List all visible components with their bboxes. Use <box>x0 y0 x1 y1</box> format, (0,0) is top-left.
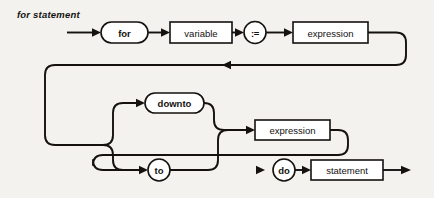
return-arrow-icon <box>222 61 231 70</box>
arrow-to-to-icon <box>139 166 148 175</box>
arrow-to-expression-icon <box>284 28 293 37</box>
node-downto-label: downto <box>158 98 192 109</box>
node-to-label: to <box>155 165 164 176</box>
node-assign-operator-label: := <box>251 28 260 39</box>
node-do-label: do <box>278 165 290 176</box>
rail-fork-to-downto <box>103 103 137 145</box>
exit-arrow-icon <box>401 166 411 175</box>
arrow-to-variable-icon <box>161 28 170 37</box>
arrow-to-assign-icon <box>235 28 244 37</box>
rail-to-merge <box>170 130 247 170</box>
node-for-label: for <box>118 28 131 39</box>
arrow-to-expression-final-icon <box>246 126 255 135</box>
rail-downto-merge <box>204 103 247 130</box>
node-expression-final-label: expression <box>270 125 316 136</box>
node-statement-label: statement <box>326 165 368 176</box>
railroad-diagram: for variable := expression downto <box>0 0 434 198</box>
entry-arrow-icon <box>92 28 101 37</box>
arrow-to-statement-icon <box>302 166 311 175</box>
node-expression-initial-label: expression <box>308 28 354 39</box>
arrow-to-do-icon <box>256 166 265 175</box>
node-variable-label: variable <box>184 28 217 39</box>
arrow-to-downto-icon <box>136 99 145 108</box>
rail-fork-to-to <box>103 145 140 170</box>
syntax-diagram-page: for statement for variable := expression <box>0 0 434 198</box>
rail-wrap-row1-to-row2 <box>45 33 406 146</box>
